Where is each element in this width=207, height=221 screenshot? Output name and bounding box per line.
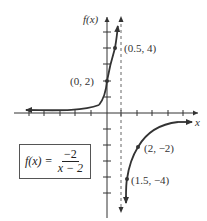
- point-0-2: [105, 79, 109, 83]
- point-label: (0.5, 4): [124, 43, 156, 54]
- point-label: (0, 2): [70, 76, 94, 87]
- curve-left-branch: [99, 29, 118, 105]
- point-2-neg2: [136, 145, 140, 149]
- y-axis: [103, 17, 111, 218]
- point-label: (1.5, −4): [131, 175, 169, 186]
- point-label: (2, −2): [144, 143, 174, 154]
- formula-fraction: −2 x − 2: [56, 148, 85, 175]
- point-1.5-neg4: [125, 177, 129, 181]
- point-0.5-4: [113, 46, 117, 50]
- x-axis-label: x: [195, 117, 200, 128]
- curve-right-branch: [126, 122, 178, 198]
- y-axis-label: f(x): [83, 14, 98, 25]
- vertical-asymptote: [119, 16, 124, 213]
- graph-canvas: [0, 0, 207, 221]
- curve-left-tail: [26, 105, 99, 110]
- function-formula-box: f(x) = −2 x − 2: [19, 144, 91, 179]
- formula-numerator: −2: [62, 148, 79, 162]
- formula-denominator: x − 2: [56, 162, 85, 175]
- formula-lhs: f(x) =: [25, 154, 53, 169]
